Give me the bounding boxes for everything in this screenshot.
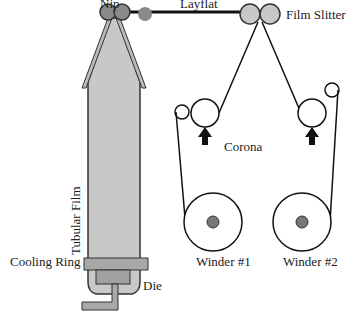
web-idler-right xyxy=(330,90,338,222)
label-winder-1: Winder #1 xyxy=(196,254,251,269)
label-winder-2: Winder #2 xyxy=(283,254,338,269)
web-right xyxy=(262,22,301,113)
label-corona: Corona xyxy=(224,139,263,154)
label-tubular-film: Tubular Film xyxy=(68,186,83,255)
corona-roller-right xyxy=(298,99,326,127)
winder-1-core xyxy=(207,216,219,228)
corona-arrow-right-icon xyxy=(305,127,319,145)
label-layflat: Layflat xyxy=(180,0,218,11)
label-film-slitter: Film Slitter xyxy=(286,7,346,22)
cooling-ring xyxy=(84,258,148,270)
label-nip: Nip xyxy=(100,0,120,11)
corona-roller-left xyxy=(191,99,219,127)
web-idler-left xyxy=(176,112,186,230)
web-left xyxy=(219,22,258,113)
winder-2-core xyxy=(296,216,308,228)
slitter-roller-left xyxy=(240,4,260,24)
idler-roller xyxy=(138,7,152,21)
slitter-roller-right xyxy=(260,4,280,24)
blown-film-diagram: Nip Layflat Film Slitter Corona Tubular … xyxy=(0,0,356,320)
die xyxy=(96,270,130,284)
label-die: Die xyxy=(143,278,162,293)
idler-right xyxy=(325,83,339,97)
label-cooling-ring: Cooling Ring xyxy=(10,254,81,269)
corona-arrow-left-icon xyxy=(198,127,212,145)
